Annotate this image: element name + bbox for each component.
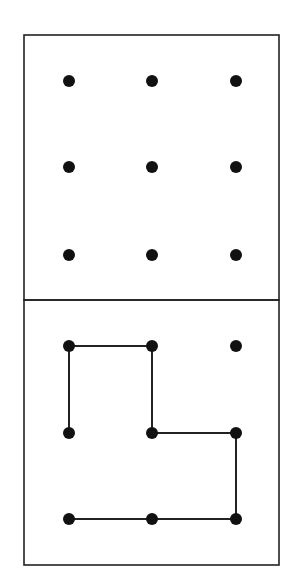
dot [230, 340, 242, 352]
dot [63, 249, 75, 261]
dot [146, 340, 158, 352]
panels [24, 35, 279, 565]
dot [146, 75, 158, 87]
dot [146, 249, 158, 261]
dot [230, 249, 242, 261]
dot-grid-diagram [0, 0, 294, 587]
dot [230, 161, 242, 173]
dot [146, 427, 158, 439]
dot [146, 513, 158, 525]
dot [230, 513, 242, 525]
dot [63, 513, 75, 525]
dot [63, 161, 75, 173]
dot [63, 427, 75, 439]
dot [230, 427, 242, 439]
dot [146, 161, 158, 173]
dot [230, 75, 242, 87]
dot [63, 340, 75, 352]
dot [63, 75, 75, 87]
